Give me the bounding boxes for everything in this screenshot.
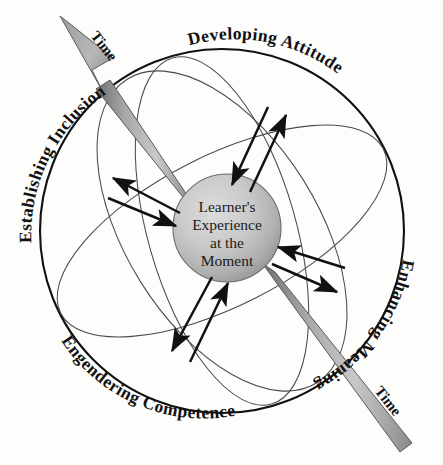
label-enhancing-meaning-text: Enhancing Meaning xyxy=(312,258,419,396)
time-axis-shaft-head xyxy=(96,80,193,204)
arrow-in-left xyxy=(108,198,176,226)
label-engendering-competence: Engendering Competence xyxy=(58,331,237,422)
sphere-line-1: Learner's xyxy=(198,198,255,215)
label-establishing-inclusion: Establishing Inclusion xyxy=(15,81,109,244)
label-establishing-inclusion-text: Establishing Inclusion xyxy=(15,81,109,244)
sphere-diagram-svg: Learner's Experience at the Moment Devel… xyxy=(0,0,443,465)
arrow-in-right xyxy=(278,247,345,268)
label-enhancing-meaning: Enhancing Meaning xyxy=(312,258,419,396)
arrow-out-top xyxy=(250,115,286,192)
sphere-line-3: at the xyxy=(210,234,244,251)
sphere-line-2: Experience xyxy=(192,216,262,233)
sphere-line-4: Moment xyxy=(201,252,254,269)
arrow-in-top xyxy=(232,107,268,185)
diagram-canvas: Learner's Experience at the Moment Devel… xyxy=(0,0,443,465)
arrow-out-left xyxy=(113,178,180,213)
label-engendering-competence-text: Engendering Competence xyxy=(58,331,237,422)
arrow-out-bottom xyxy=(172,277,212,351)
